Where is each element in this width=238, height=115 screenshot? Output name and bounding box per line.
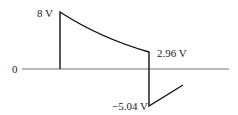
peak-label: 8 V bbox=[37, 7, 53, 19]
min-label: −5.04 V bbox=[112, 100, 148, 112]
waveform-diagram: 0 8 V 2.96 V −5.04 V bbox=[0, 0, 238, 115]
waveform-path bbox=[60, 12, 183, 106]
origin-label: 0 bbox=[12, 63, 18, 75]
end-positive-label: 2.96 V bbox=[157, 47, 187, 59]
